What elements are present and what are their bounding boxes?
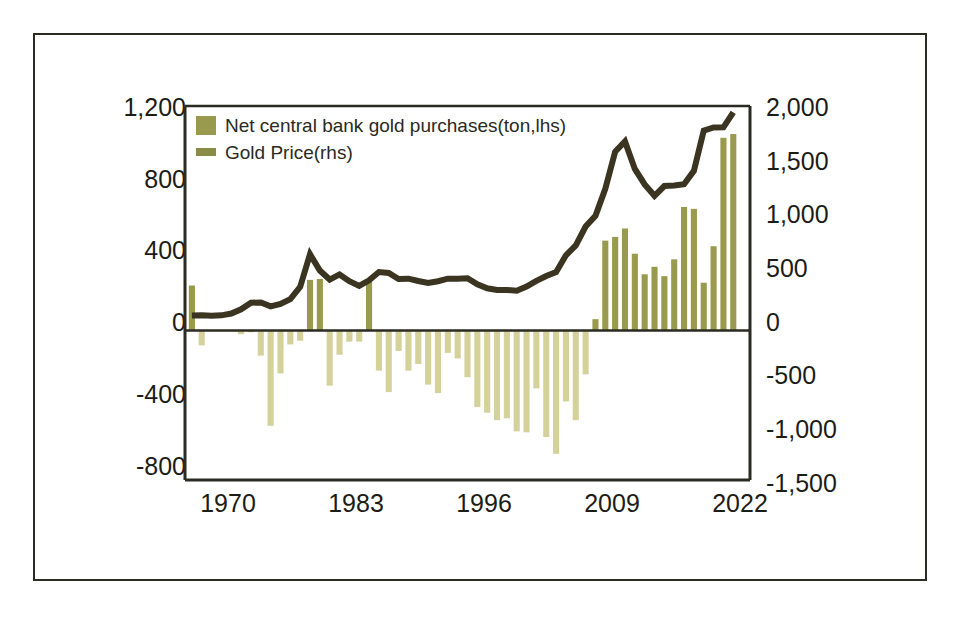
legend-item-line: Gold Price(rhs): [196, 139, 566, 165]
bar: [720, 138, 726, 331]
bar: [484, 330, 490, 412]
chart-plot-container: 1,200 800 400 0 -400 -800 2,000 1,500 1,…: [0, 0, 968, 625]
bar: [583, 330, 589, 374]
chart-legend: Net central bank gold purchases(ton,lhs)…: [196, 112, 566, 166]
bar: [386, 330, 392, 392]
bar: [543, 330, 549, 437]
bar: [189, 286, 195, 331]
bar: [691, 209, 697, 331]
bar: [317, 279, 323, 330]
legend-item-bars: Net central bank gold purchases(ton,lhs): [196, 112, 566, 138]
bar: [415, 330, 421, 364]
bar: [445, 330, 451, 352]
bar: [356, 330, 362, 341]
legend-label-bars: Net central bank gold purchases(ton,lhs): [225, 116, 566, 135]
bar: [455, 330, 461, 358]
bar: [612, 237, 618, 331]
bar: [504, 330, 510, 418]
bar: [366, 280, 372, 330]
bar: [405, 330, 411, 370]
bar: [602, 241, 608, 331]
bar: [661, 276, 667, 330]
bar: [514, 330, 520, 431]
bar: [563, 330, 569, 401]
bar: [592, 319, 598, 330]
bar: [474, 330, 480, 407]
plot-canvas: [0, 0, 968, 625]
bar: [622, 228, 628, 330]
bar: [258, 330, 264, 355]
bar: [494, 330, 500, 420]
bar: [730, 134, 736, 330]
chart-screenshot: 1,200 800 400 0 -400 -800 2,000 1,500 1,…: [0, 0, 968, 625]
bar: [435, 330, 441, 393]
bar: [307, 280, 313, 330]
bar: [524, 330, 530, 432]
bar: [553, 330, 559, 453]
bar: [651, 267, 657, 331]
bar: [297, 330, 303, 340]
bar: [671, 259, 677, 330]
bar: [533, 330, 539, 388]
bar: [701, 283, 707, 331]
bar: [711, 246, 717, 330]
bar: [346, 330, 352, 341]
bar: [199, 330, 205, 345]
bar-series-layer: [189, 134, 736, 454]
bar: [396, 330, 402, 351]
bar: [681, 207, 687, 330]
bar: [336, 330, 342, 354]
bar: [573, 330, 579, 420]
bar: [287, 330, 293, 344]
bar: [327, 330, 333, 385]
bar: [277, 330, 283, 373]
bar: [425, 330, 431, 384]
line-swatch-icon: [196, 148, 216, 156]
bar-swatch-icon: [196, 116, 216, 135]
bar: [632, 254, 638, 331]
bar: [268, 330, 274, 425]
bar: [642, 274, 648, 330]
bar: [464, 330, 470, 377]
bar: [376, 330, 382, 370]
legend-label-line: Gold Price(rhs): [225, 143, 353, 162]
